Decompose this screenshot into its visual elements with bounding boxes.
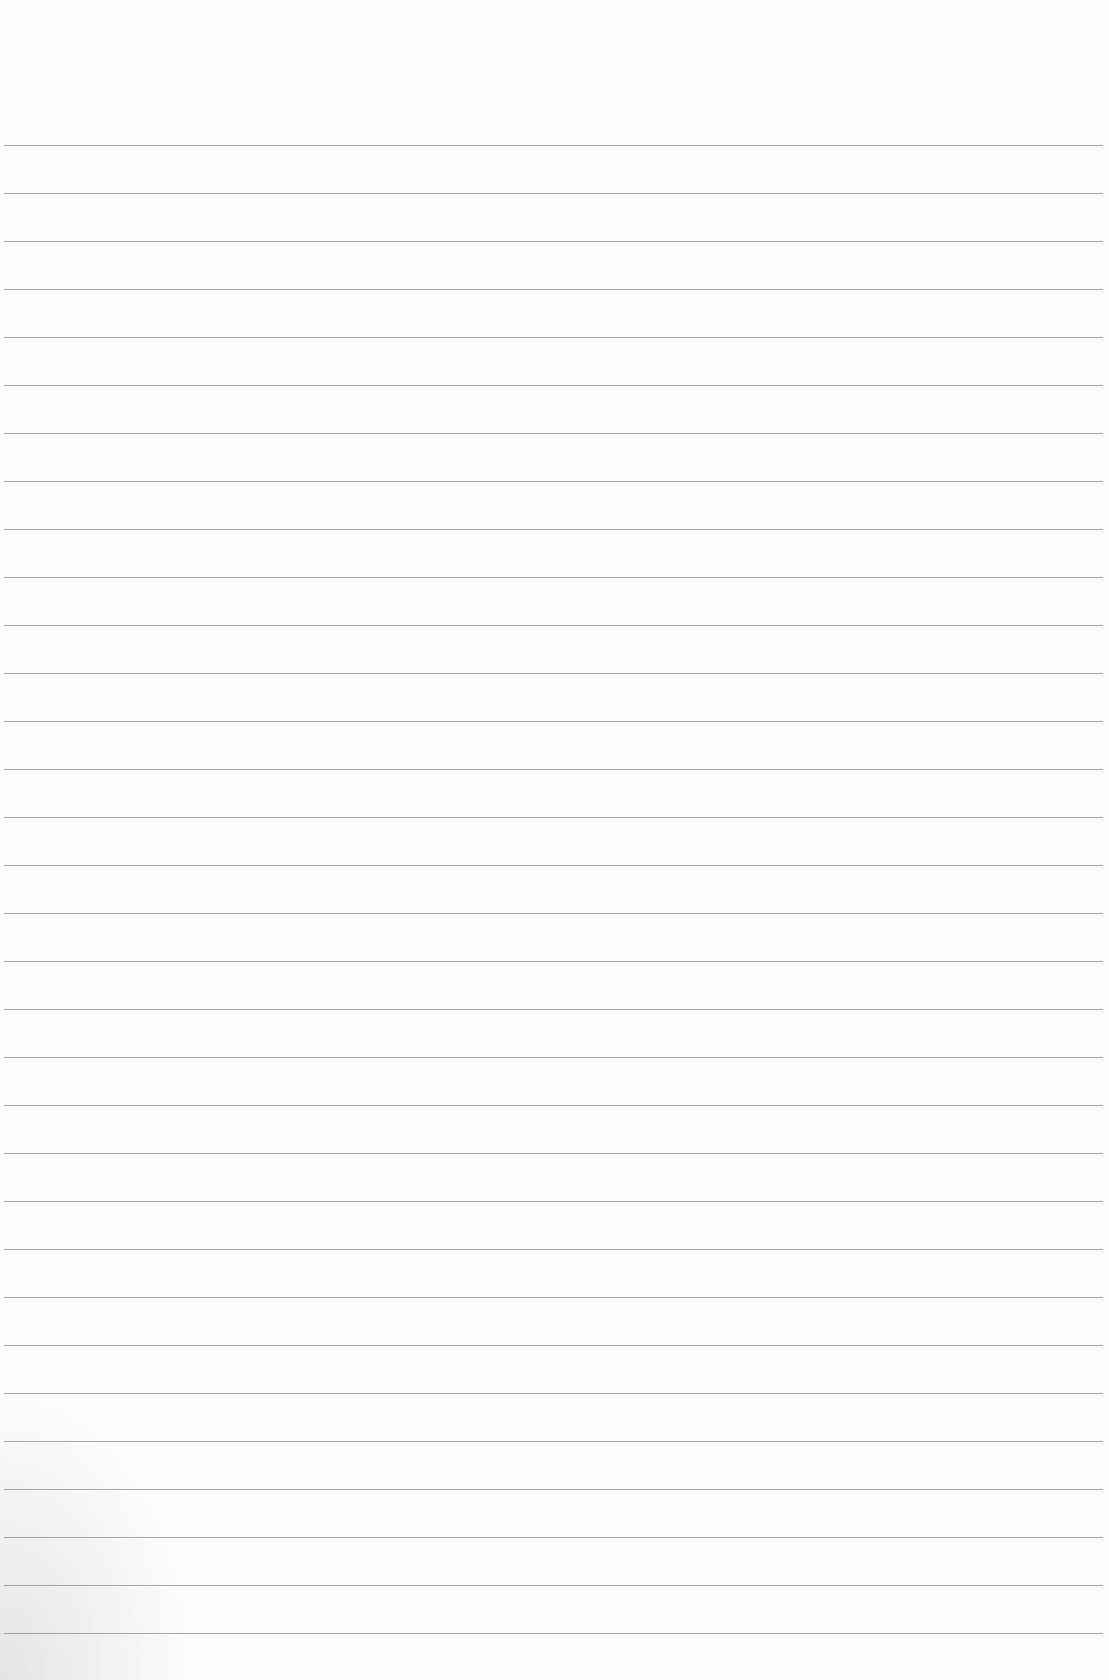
ruled-line bbox=[4, 193, 1103, 194]
ruled-line bbox=[4, 1297, 1103, 1298]
ruled-line bbox=[4, 769, 1103, 770]
ruled-line bbox=[4, 1153, 1103, 1154]
ruled-line bbox=[4, 1537, 1103, 1538]
ruled-line bbox=[4, 1585, 1103, 1586]
ruled-line bbox=[4, 961, 1103, 962]
ruled-line bbox=[4, 1633, 1103, 1634]
ruled-line bbox=[4, 145, 1103, 146]
ruled-line bbox=[4, 1057, 1103, 1058]
ruled-line bbox=[4, 1441, 1103, 1442]
ruled-line bbox=[4, 529, 1103, 530]
ruled-line bbox=[4, 1393, 1103, 1394]
ruled-line bbox=[4, 433, 1103, 434]
ruled-line bbox=[4, 385, 1103, 386]
ruled-line bbox=[4, 625, 1103, 626]
ruled-line bbox=[4, 241, 1103, 242]
ruled-line bbox=[4, 1105, 1103, 1106]
ruled-line bbox=[4, 289, 1103, 290]
ruled-line bbox=[4, 673, 1103, 674]
ruled-line bbox=[4, 1249, 1103, 1250]
ruled-line bbox=[4, 481, 1103, 482]
ruled-line bbox=[4, 817, 1103, 818]
ruled-line bbox=[4, 577, 1103, 578]
ruled-line bbox=[4, 865, 1103, 866]
ruled-line bbox=[4, 1201, 1103, 1202]
ruled-line bbox=[4, 1489, 1103, 1490]
ruled-line bbox=[4, 337, 1103, 338]
ruled-line bbox=[4, 913, 1103, 914]
ruled-line bbox=[4, 721, 1103, 722]
lined-paper-sheet bbox=[0, 0, 1109, 1680]
ruled-line bbox=[4, 1345, 1103, 1346]
ruled-line bbox=[4, 1009, 1103, 1010]
